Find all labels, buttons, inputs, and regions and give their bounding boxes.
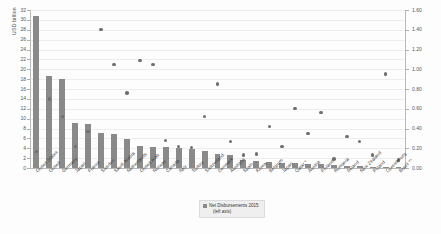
y-axis-left-tick-mark xyxy=(27,158,30,159)
y-axis-right-tick-mark xyxy=(406,148,409,149)
y-axis-right-tick-mark xyxy=(406,30,409,31)
y-axis-left-tick-mark xyxy=(27,168,30,169)
x-axis-tick-mark xyxy=(205,168,206,170)
y-axis-left-tick-mark xyxy=(27,138,30,139)
x-axis-tick-mark xyxy=(399,168,400,170)
y-axis-left-tick-label: 22 xyxy=(10,57,26,62)
x-axis-tick-mark xyxy=(75,168,76,170)
y-axis-right-tick-label: 0.00 xyxy=(412,166,434,171)
x-axis-tick-mark xyxy=(308,168,309,170)
y-axis-left-tick-mark xyxy=(27,59,30,60)
y-axis-left-tick-mark xyxy=(27,30,30,31)
y-axis-left-tick-mark xyxy=(27,148,30,149)
scatter-point xyxy=(229,140,232,143)
y-axis-left-tick-label: 6 xyxy=(10,136,26,141)
legend-swatch-net-disbursements xyxy=(203,204,207,208)
x-axis-tick-mark xyxy=(360,168,361,170)
y-axis-right-tick-mark xyxy=(406,89,409,90)
x-axis-tick-mark xyxy=(347,168,348,170)
y-axis-right-tick-mark xyxy=(406,69,409,70)
x-axis-tick-mark xyxy=(282,168,283,170)
scatter-point xyxy=(138,59,141,62)
y-axis-right-tick-label: 1.20 xyxy=(412,47,434,52)
chart-container: USD billion 0246810121416182022242628303… xyxy=(0,0,441,234)
y-axis-left-tick-mark xyxy=(27,79,30,80)
x-axis-tick-mark xyxy=(127,168,128,170)
gridline xyxy=(30,10,405,11)
y-axis-right-tick-label: 1.40 xyxy=(412,27,434,32)
scatter-point xyxy=(86,130,89,133)
x-axis-tick-mark xyxy=(192,168,193,170)
y-axis-left-tick-label: 28 xyxy=(10,27,26,32)
y-axis-left-line xyxy=(30,10,31,169)
gridline xyxy=(30,20,405,21)
y-axis-left-tick-label: 18 xyxy=(10,77,26,82)
legend-sublabel: (left axis) xyxy=(209,209,259,215)
gridline xyxy=(30,99,405,100)
x-axis-tick-mark xyxy=(334,168,335,170)
y-axis-right-tick-label: 1.00 xyxy=(412,67,434,72)
y-axis-left-tick-mark xyxy=(27,10,30,11)
gridline xyxy=(30,69,405,70)
x-axis-tick-mark xyxy=(101,168,102,170)
plot-area xyxy=(30,10,405,168)
scatter-point xyxy=(255,152,258,155)
x-axis-tick-mark xyxy=(243,168,244,170)
y-axis-left-tick-label: 30 xyxy=(10,17,26,22)
x-axis-tick-mark xyxy=(62,168,63,170)
x-axis-tick-mark xyxy=(256,168,257,170)
y-axis-left-tick-label: 14 xyxy=(10,96,26,101)
x-axis-tick-mark xyxy=(295,168,296,170)
gridline xyxy=(30,119,405,120)
scatter-point xyxy=(125,91,128,94)
y-axis-left-tick-mark xyxy=(27,20,30,21)
y-axis-right-tick-label: 0.60 xyxy=(412,106,434,111)
y-axis-left-tick-mark xyxy=(27,69,30,70)
gridline xyxy=(30,50,405,51)
y-axis-right-tick-mark xyxy=(406,50,409,51)
scatter-point xyxy=(151,63,154,66)
y-axis-left-tick-mark xyxy=(27,109,30,110)
y-axis-right-tick-mark xyxy=(406,129,409,130)
scatter-point xyxy=(48,97,51,100)
y-axis-left-tick-label: 8 xyxy=(10,126,26,131)
x-axis-tick-mark xyxy=(179,168,180,170)
scatter-point xyxy=(112,63,115,66)
scatter-point xyxy=(345,135,348,138)
scatter-point xyxy=(216,82,219,85)
gridline xyxy=(30,30,405,31)
y-axis-left-tick-mark xyxy=(27,119,30,120)
x-axis-tick-mark xyxy=(373,168,374,170)
y-axis-right-tick-label: 1.60 xyxy=(412,8,434,13)
y-axis-right-tick-label: 0.80 xyxy=(412,87,434,92)
y-axis-left-tick-label: 4 xyxy=(10,146,26,151)
gridline xyxy=(30,79,405,80)
y-axis-left-tick-label: 16 xyxy=(10,87,26,92)
bar xyxy=(189,149,195,168)
scatter-point xyxy=(35,150,38,153)
y-axis-left-tick-mark xyxy=(27,129,30,130)
x-axis-tick-mark xyxy=(88,168,89,170)
y-axis-left-tick-label: 0 xyxy=(10,166,26,171)
y-axis-left-tick-label: 2 xyxy=(10,156,26,161)
x-axis-tick-mark xyxy=(166,168,167,170)
bar xyxy=(59,79,65,168)
y-axis-left-tick-mark xyxy=(27,40,30,41)
chart-legend[interactable]: Net Disbursements 2015(left axis) xyxy=(199,200,265,218)
x-axis-tick-mark xyxy=(218,168,219,170)
x-axis-tick-mark xyxy=(269,168,270,170)
x-axis-tick-mark xyxy=(153,168,154,170)
y-axis-right-tick-mark xyxy=(406,10,409,11)
x-axis-tick-mark xyxy=(386,168,387,170)
x-axis-tick-mark xyxy=(114,168,115,170)
y-axis-left-tick-label: 20 xyxy=(10,67,26,72)
x-axis-tick-mark xyxy=(230,168,231,170)
y-axis-left-tick-mark xyxy=(27,99,30,100)
scatter-point xyxy=(268,125,271,128)
y-axis-left-tick-label: 12 xyxy=(10,106,26,111)
scatter-point xyxy=(280,145,283,148)
y-axis-left-tick-label: 24 xyxy=(10,47,26,52)
gridline xyxy=(30,40,405,41)
y-axis-right-tick-label: 0.40 xyxy=(412,126,434,131)
y-axis-right-tick-mark xyxy=(406,109,409,110)
